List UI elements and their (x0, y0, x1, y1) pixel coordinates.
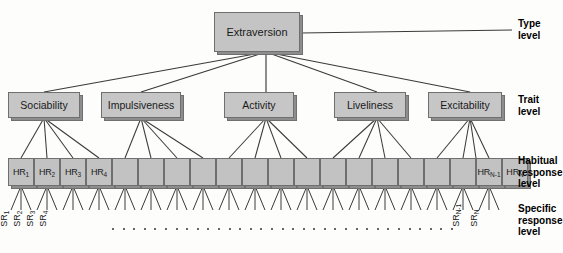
habitual-response-node[interactable] (138, 158, 164, 186)
level-caption-trait: Trait level (518, 94, 540, 117)
trait-node-label: Sociability (20, 99, 67, 111)
ellipsis-dot (176, 228, 178, 230)
ellipsis-dot (165, 228, 167, 230)
specific-response-label-sr4: SR4 (38, 211, 49, 227)
specific-response-label-sr1: SR1 (0, 211, 10, 227)
ellipsis-dot (440, 228, 442, 230)
habitual-response-node-hr4[interactable]: HR4 (86, 158, 112, 186)
habitual-response-node[interactable] (372, 158, 398, 186)
ellipsis-dot (324, 228, 326, 230)
ellipsis-dot (207, 228, 209, 230)
ellipsis-dot (112, 228, 114, 230)
ellipsis-dot (451, 228, 453, 230)
trait-node-sociability[interactable]: Sociability (8, 92, 80, 118)
level-caption-habitual-response: Habitual response level (518, 155, 562, 190)
ellipsis-dot (366, 228, 368, 230)
trait-node-label: Liveliness (347, 99, 393, 111)
level-caption-type: Type level (518, 18, 541, 41)
trait-node-label: Activity (242, 99, 275, 111)
ellipsis-dot (123, 228, 125, 230)
habitual-response-node[interactable] (424, 158, 450, 186)
habitual-response-node-hr3[interactable]: HR3 (60, 158, 86, 186)
ellipsis-dot (334, 228, 336, 230)
ellipsis-dot (239, 228, 241, 230)
habitual-response-node-hr2[interactable]: HR2 (34, 158, 60, 186)
ellipsis-dot (282, 228, 284, 230)
ellipsis-dot (409, 228, 411, 230)
specific-response-ellipsis (112, 228, 462, 230)
habitual-response-node[interactable] (216, 158, 242, 186)
trait-node-label: Excitability (440, 99, 490, 111)
specific-response-label-sr3: SR3 (25, 211, 36, 227)
ellipsis-dot (377, 228, 379, 230)
personality-hierarchy-diagram: Extraversion Type level Sociability Impu… (0, 0, 563, 253)
ellipsis-dot (419, 228, 421, 230)
habitual-response-node[interactable] (294, 158, 320, 186)
ellipsis-dot (260, 228, 262, 230)
habitual-response-node-label: HR3 (65, 167, 81, 178)
habitual-response-node-label: HR2 (39, 167, 55, 178)
habitual-response-node[interactable] (190, 158, 216, 186)
specific-response-label-srn: SRN (469, 210, 480, 227)
type-level-leader-line (300, 30, 512, 33)
ellipsis-dot (186, 228, 188, 230)
type-node-label: Extraversion (226, 26, 287, 38)
trait-node-liveliness[interactable]: Liveliness (334, 92, 406, 118)
habitual-response-node[interactable] (164, 158, 190, 186)
trait-node-impulsiveness[interactable]: Impulsiveness (101, 92, 181, 118)
ellipsis-dot (303, 228, 305, 230)
level-caption-specific-response: Specific response level (518, 203, 562, 238)
habitual-response-node-hrn-1[interactable]: HRN-1 (476, 158, 502, 186)
ellipsis-dot (218, 228, 220, 230)
ellipsis-dot (144, 228, 146, 230)
trait-node-label: Impulsiveness (108, 99, 175, 111)
ellipsis-dot (356, 228, 358, 230)
habitual-response-node[interactable] (450, 158, 476, 186)
habitual-response-node-label: HR1 (13, 167, 29, 178)
ellipsis-dot (197, 228, 199, 230)
habitual-response-node[interactable] (346, 158, 372, 186)
type-node-extraversion[interactable]: Extraversion (214, 12, 300, 52)
ellipsis-dot (398, 228, 400, 230)
ellipsis-dot (387, 228, 389, 230)
ellipsis-dot (229, 228, 231, 230)
habitual-response-node[interactable] (320, 158, 346, 186)
ellipsis-dot (345, 228, 347, 230)
specific-response-label-sr2: SR2 (12, 211, 23, 227)
ellipsis-dot (313, 228, 315, 230)
habitual-response-node[interactable] (398, 158, 424, 186)
trait-node-excitability[interactable]: Excitability (428, 92, 502, 118)
ellipsis-dot (154, 228, 156, 230)
ellipsis-dot (133, 228, 135, 230)
trait-node-activity[interactable]: Activity (224, 92, 294, 118)
ellipsis-dot (292, 228, 294, 230)
specific-response-label-srn-1: SRN-1 (451, 204, 462, 227)
habitual-response-node-label: HRN-1 (477, 167, 500, 178)
habitual-response-node-label: HR4 (91, 167, 107, 178)
ellipsis-dot (430, 228, 432, 230)
ellipsis-dot (271, 228, 273, 230)
habitual-response-node-hr1[interactable]: HR1 (8, 158, 34, 186)
habitual-response-node[interactable] (268, 158, 294, 186)
habitual-response-node[interactable] (242, 158, 268, 186)
ellipsis-dot (250, 228, 252, 230)
habitual-response-node[interactable] (112, 158, 138, 186)
